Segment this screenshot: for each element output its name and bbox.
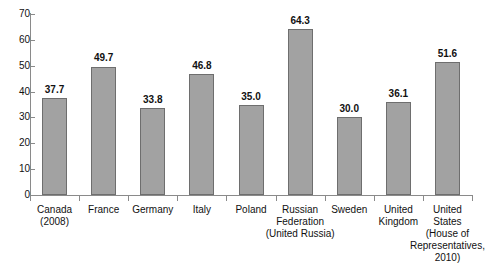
y-tick-label-0: 0 — [6, 190, 30, 200]
bar-value-label: 36.1 — [375, 89, 421, 99]
bar-value-label: 35.0 — [228, 92, 274, 102]
bar-value-label: 46.8 — [179, 61, 225, 71]
bar — [435, 62, 460, 195]
bar — [42, 98, 67, 195]
bar — [386, 102, 411, 195]
category-label-line: Federation — [262, 216, 338, 228]
y-tick-label-60: 60 — [6, 35, 30, 45]
x-tick — [325, 196, 326, 201]
category-label-line: (House of — [409, 228, 485, 240]
bar — [288, 29, 313, 195]
x-tick — [79, 196, 80, 201]
bar-value-label: 30.0 — [326, 104, 372, 114]
y-tick-label-50: 50 — [6, 61, 30, 71]
x-tick — [177, 196, 178, 201]
bar-value-label: 37.7 — [32, 85, 78, 95]
plot-area — [30, 14, 472, 195]
bar-value-label: 33.8 — [130, 95, 176, 105]
x-tick — [30, 196, 31, 201]
category-label-line: 2010) — [409, 252, 485, 264]
y-tick-label-30: 30 — [6, 112, 30, 122]
category-label-line: States — [409, 216, 485, 228]
x-axis-line — [30, 195, 473, 196]
y-tick-label-70: 70 — [6, 9, 30, 19]
bar-value-label: 49.7 — [81, 53, 127, 63]
x-tick — [423, 196, 424, 201]
bar — [91, 67, 116, 196]
y-tick-label-20: 20 — [6, 138, 30, 148]
x-tick — [128, 196, 129, 201]
category-label-line: (United Russia) — [262, 228, 338, 240]
category-label: UnitedStates(House ofRepresentatives,201… — [409, 204, 485, 264]
bar-value-label: 51.6 — [424, 49, 470, 59]
x-tick — [472, 196, 473, 201]
x-tick — [226, 196, 227, 201]
bar — [140, 108, 165, 195]
x-tick — [276, 196, 277, 201]
x-tick — [374, 196, 375, 201]
bar — [337, 117, 362, 195]
bar-value-label: 64.3 — [277, 16, 323, 26]
category-label-line: (2008) — [17, 216, 93, 228]
y-tick-label-10: 10 — [6, 164, 30, 174]
y-tick-label-40: 40 — [6, 87, 30, 97]
category-label-line: United — [409, 204, 485, 216]
bar — [189, 74, 214, 195]
bar — [239, 105, 264, 196]
category-label-line: Representatives, — [409, 240, 485, 252]
